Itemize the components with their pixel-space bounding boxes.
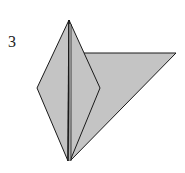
center-fold-line — [68, 20, 69, 161]
diamond-left-half — [37, 20, 69, 161]
origami-fold-diagram — [0, 0, 185, 173]
